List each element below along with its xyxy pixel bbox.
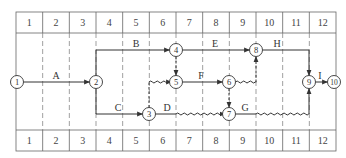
time-unit-bottom-9: 9 xyxy=(240,135,245,146)
time-unit-bottom-11: 11 xyxy=(291,135,301,146)
activity-d-float xyxy=(176,113,225,115)
node-3: 3 xyxy=(143,108,156,121)
time-unit-bottom-6: 6 xyxy=(160,135,165,146)
time-unit-bottom-7: 7 xyxy=(187,135,192,146)
activity-h-arrow xyxy=(263,50,310,76)
time-unit-top-11: 11 xyxy=(291,17,301,28)
node-5: 5 xyxy=(170,76,183,89)
time-unit-top-3: 3 xyxy=(80,17,85,28)
time-unit-top-5: 5 xyxy=(134,17,139,28)
node-7: 7 xyxy=(223,108,236,121)
node-6: 6 xyxy=(223,76,236,89)
time-unit-top-8: 8 xyxy=(214,17,219,28)
activity-label-h: H xyxy=(273,38,280,49)
time-unit-bottom-4: 4 xyxy=(107,135,112,146)
time-unit-bottom-1: 1 xyxy=(27,135,32,146)
time-unit-bottom-10: 10 xyxy=(264,135,274,146)
node-5-label: 5 xyxy=(174,77,178,87)
activity-label-f: F xyxy=(198,70,204,81)
time-unit-bottom-12: 12 xyxy=(318,135,328,146)
node-1: 1 xyxy=(11,76,24,89)
node-8-label: 8 xyxy=(254,45,258,55)
node-10: 10 xyxy=(328,76,341,89)
time-unit-bottom-2: 2 xyxy=(54,135,59,146)
node-9-label: 9 xyxy=(307,77,311,87)
node-3-label: 3 xyxy=(147,109,151,119)
activity-b-arrow xyxy=(96,50,170,76)
time-unit-bottom-5: 5 xyxy=(134,135,139,146)
time-unit-top-1: 1 xyxy=(27,17,32,28)
node-2: 2 xyxy=(90,76,103,89)
time-unit-top-6: 6 xyxy=(160,17,165,28)
time-unit-bottom-3: 3 xyxy=(80,135,85,146)
activity-label-b: B xyxy=(133,38,140,49)
node-9: 9 xyxy=(303,76,316,89)
node-1-label: 1 xyxy=(15,77,19,87)
node-8: 8 xyxy=(250,44,263,57)
activity-label-c: C xyxy=(115,102,122,113)
time-unit-top-10: 10 xyxy=(264,17,274,28)
network-diagram: 123456789101112 123456789101112 xyxy=(0,0,346,158)
time-unit-top-7: 7 xyxy=(187,17,192,28)
activity-label-i: I xyxy=(318,70,321,81)
activity-labels: A B C D E F G H I xyxy=(52,38,321,113)
time-unit-top-9: 9 xyxy=(240,17,245,28)
node-6-label: 6 xyxy=(227,77,231,87)
node-4: 4 xyxy=(170,44,183,57)
time-unit-top-4: 4 xyxy=(107,17,112,28)
time-unit-bottom-8: 8 xyxy=(214,135,219,146)
activity-label-a: A xyxy=(52,70,60,81)
dummy-3-5-float xyxy=(149,81,172,83)
activity-label-d: D xyxy=(163,102,170,113)
activity-label-e: E xyxy=(212,38,218,49)
activity-g-float xyxy=(256,113,309,115)
node-2-label: 2 xyxy=(94,77,98,87)
time-unit-top-2: 2 xyxy=(54,17,59,28)
time-unit-top-12: 12 xyxy=(318,17,328,28)
dummy-6-8-float xyxy=(236,81,257,83)
node-10-label: 10 xyxy=(330,78,338,87)
node-7-label: 7 xyxy=(227,109,231,119)
activity-label-g: G xyxy=(241,102,248,113)
